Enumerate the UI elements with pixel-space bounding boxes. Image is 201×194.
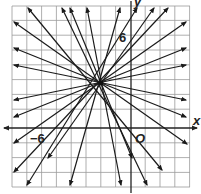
origin-label: O (135, 131, 145, 146)
x-tick-label: −6 (30, 131, 45, 146)
y-axis-label: y (134, 0, 141, 9)
center-point (99, 81, 104, 86)
x-axis-label: x (193, 113, 200, 128)
y-tick-label: 6 (119, 30, 126, 45)
coordinate-graph (0, 0, 201, 194)
